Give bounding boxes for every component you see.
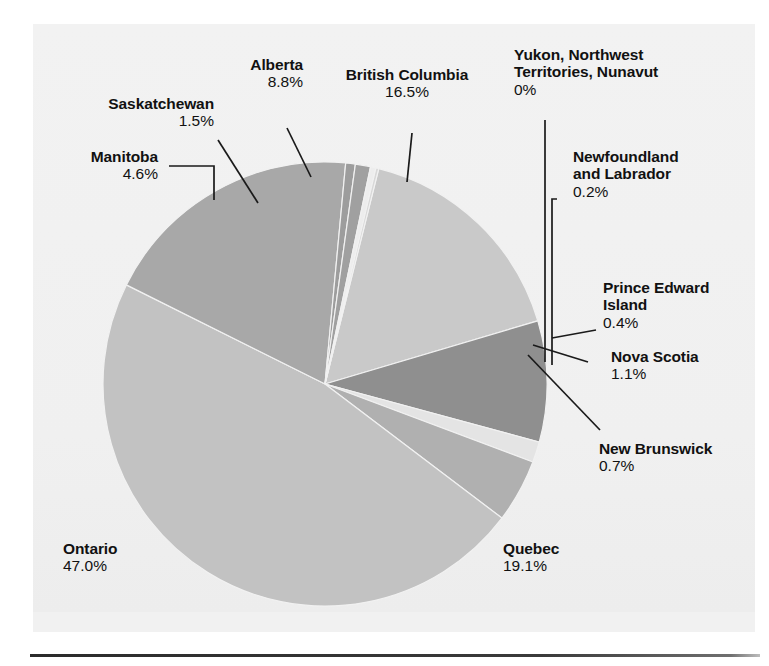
label-alberta: Alberta 8.8% <box>188 56 303 91</box>
label-quebec-name: Quebec <box>503 540 643 557</box>
label-quebec: Quebec 19.1% <box>503 540 643 575</box>
label-quebec-percent: 19.1% <box>503 557 643 574</box>
label-ontario: Ontario 47.0% <box>63 540 203 575</box>
label-newfoundland-percent: 0.2% <box>573 183 763 200</box>
bottom-divider <box>30 654 760 657</box>
label-british-columbia-percent: 16.5% <box>317 83 497 100</box>
label-manitoba-name: Manitoba <box>18 148 158 165</box>
label-prince-edward-island: Prince Edward Island 0.4% <box>603 279 769 331</box>
leader-line-pei <box>552 330 596 338</box>
chart-page: Saskatchewan 1.5% Alberta 8.8% British C… <box>0 0 769 666</box>
label-saskatchewan: Saskatchewan 1.5% <box>36 95 214 130</box>
label-nova-scotia-percent: 1.1% <box>611 365 761 382</box>
label-new-brunswick-name: New Brunswick <box>599 440 759 457</box>
label-new-brunswick: New Brunswick 0.7% <box>599 440 759 475</box>
label-british-columbia: British Columbia 16.5% <box>317 66 497 101</box>
leader-line-manitoba <box>169 166 214 200</box>
label-nova-scotia-name: Nova Scotia <box>611 348 761 365</box>
label-alberta-percent: 8.8% <box>188 73 303 90</box>
label-ontario-name: Ontario <box>63 540 203 557</box>
label-prince-edward-island-percent: 0.4% <box>603 314 769 331</box>
leader-line-newfoundland <box>552 199 557 365</box>
label-manitoba: Manitoba 4.6% <box>18 148 158 183</box>
label-new-brunswick-percent: 0.7% <box>599 457 759 474</box>
label-territories: Yukon, Northwest Territories, Nunavut 0% <box>514 46 749 98</box>
label-british-columbia-name: British Columbia <box>317 66 497 83</box>
label-prince-edward-island-name: Prince Edward Island <box>603 279 769 314</box>
label-alberta-name: Alberta <box>188 56 303 73</box>
label-newfoundland-name: Newfoundland and Labrador <box>573 148 763 183</box>
label-territories-name: Yukon, Northwest Territories, Nunavut <box>514 46 749 81</box>
label-saskatchewan-name: Saskatchewan <box>36 95 214 112</box>
label-newfoundland: Newfoundland and Labrador 0.2% <box>573 148 763 200</box>
label-manitoba-percent: 4.6% <box>18 165 158 182</box>
label-ontario-percent: 47.0% <box>63 557 203 574</box>
label-nova-scotia: Nova Scotia 1.1% <box>611 348 761 383</box>
label-saskatchewan-percent: 1.5% <box>36 112 214 129</box>
label-territories-percent: 0% <box>514 81 749 98</box>
leader-line-british-columbia <box>407 133 412 182</box>
